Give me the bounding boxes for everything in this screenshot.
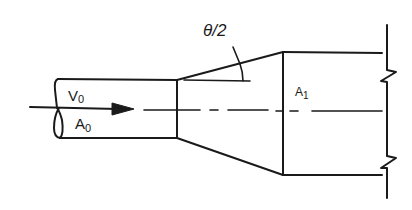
diffuser-diagram: V0 A0 A1 θ/2	[0, 0, 412, 210]
outlet-area-label: A1	[295, 85, 309, 101]
conical-diffuser	[177, 52, 283, 175]
velocity-label: V0	[68, 87, 84, 105]
centerline	[144, 110, 382, 111]
half-angle-label: θ/2	[203, 21, 227, 40]
inlet-area-label: A0	[75, 115, 91, 134]
